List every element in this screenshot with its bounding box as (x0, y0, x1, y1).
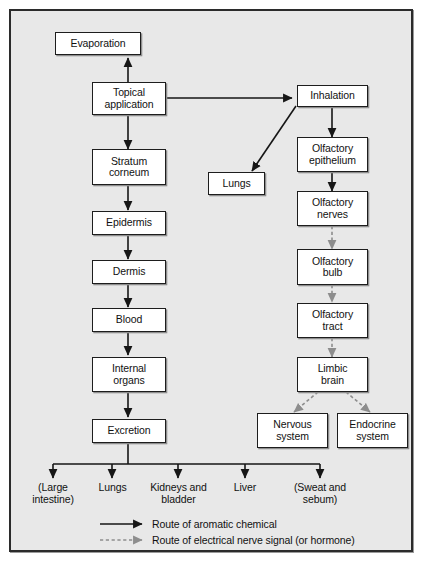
node-inhalation[interactable]: Inhalation (297, 85, 368, 107)
node-nervous-system-label-line1: Nervous (271, 419, 313, 431)
excretion-output-liver-line1: Liver (218, 482, 272, 494)
node-lungs-label: Lungs (220, 178, 252, 190)
node-internal-organs-label-line1: Internal (110, 363, 148, 375)
node-internal-organs-label-line2: organs (110, 375, 148, 387)
excretion-output-kidneys-bladder: Kidneys and bladder (140, 482, 217, 506)
excretion-output-lungs: Lungs (84, 482, 141, 494)
node-olfactory-epithelium-label-line1: Olfactory (307, 143, 358, 155)
node-topical-application-label-line2: application (102, 99, 155, 111)
node-epidermis[interactable]: Epidermis (92, 211, 166, 235)
diagram-root: Evaporation Topical application Inhalati… (0, 0, 425, 568)
excretion-output-large-intestine: (Large intestine) (23, 482, 83, 506)
node-excretion[interactable]: Excretion (92, 419, 166, 443)
node-nervous-system-label-line2: system (271, 431, 313, 443)
node-olfactory-tract-label-line2: tract (310, 321, 355, 333)
node-olfactory-bulb[interactable]: Olfactory bulb (297, 249, 368, 285)
excretion-output-sweat-sebum-line2: sebum) (281, 494, 359, 506)
node-evaporation-label: Evaporation (69, 38, 128, 50)
node-blood[interactable]: Blood (92, 308, 166, 332)
excretion-output-sweat-sebum: (Sweat and sebum) (281, 482, 359, 506)
node-blood-label: Blood (114, 314, 144, 326)
node-stratum-corneum-label-line2: corneum (107, 167, 151, 179)
node-olfactory-tract-label-line1: Olfactory (310, 309, 355, 321)
node-olfactory-epithelium[interactable]: Olfactory epithelium (297, 137, 368, 172)
node-olfactory-bulb-label-line2: bulb (310, 267, 355, 279)
node-endocrine-system[interactable]: Endocrine system (337, 413, 408, 448)
node-limbic-brain-label-line2: brain (316, 375, 350, 387)
excretion-output-large-intestine-line2: intestine) (23, 494, 83, 506)
node-excretion-label: Excretion (106, 425, 153, 437)
node-topical-application[interactable]: Topical application (92, 82, 166, 115)
node-inhalation-label: Inhalation (308, 90, 357, 102)
node-limbic-brain-label-line1: Limbic (316, 363, 350, 375)
node-olfactory-epithelium-label-line2: epithelium (307, 155, 358, 167)
node-endocrine-system-label-line1: Endocrine (347, 419, 397, 431)
node-lungs[interactable]: Lungs (208, 172, 265, 195)
node-dermis[interactable]: Dermis (92, 260, 166, 284)
node-limbic-brain[interactable]: Limbic brain (297, 357, 368, 392)
node-olfactory-tract[interactable]: Olfactory tract (297, 303, 368, 338)
node-epidermis-label: Epidermis (104, 217, 154, 229)
node-olfactory-nerves-label-line1: Olfactory (310, 197, 355, 209)
excretion-output-liver: Liver (218, 482, 272, 494)
node-topical-application-label-line1: Topical (102, 87, 155, 99)
node-olfactory-nerves[interactable]: Olfactory nerves (297, 191, 368, 226)
node-nervous-system[interactable]: Nervous system (257, 413, 328, 448)
node-internal-organs[interactable]: Internal organs (92, 357, 166, 392)
legend-dashed-label: Route of electrical nerve signal (or hor… (152, 534, 355, 546)
node-dermis-label: Dermis (111, 266, 148, 278)
node-olfactory-nerves-label-line2: nerves (310, 209, 355, 221)
legend-solid-label: Route of aromatic chemical (152, 518, 277, 530)
excretion-output-lungs-line1: Lungs (84, 482, 141, 494)
node-stratum-corneum[interactable]: Stratum corneum (92, 149, 166, 185)
node-evaporation[interactable]: Evaporation (55, 32, 141, 55)
excretion-output-kidneys-bladder-line2: bladder (140, 494, 217, 506)
node-endocrine-system-label-line2: system (347, 431, 397, 443)
